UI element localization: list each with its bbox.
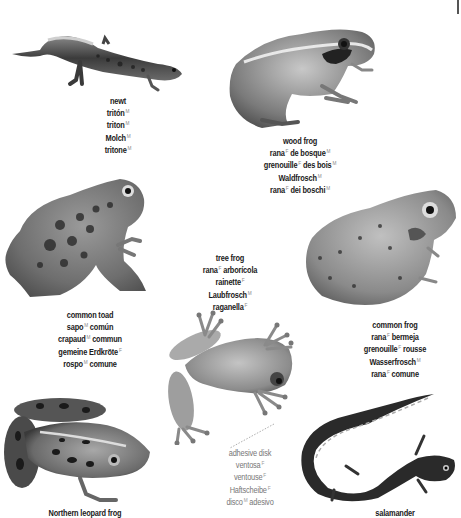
adhesive-disk-callout: adhesive disk ventosaF ventouseF Haftsch… xyxy=(198,448,301,507)
common-frog-label: common frog ranaF bermeja grenouilleF ro… xyxy=(343,320,446,379)
northern-leopard-frog-illustration xyxy=(0,392,160,502)
gender-marker: M xyxy=(248,290,252,296)
gender-marker: M xyxy=(244,497,248,503)
wood-frog-name: wood frog xyxy=(248,136,351,146)
page-corner-mark xyxy=(457,0,459,14)
adhesive-disk-leader-line xyxy=(220,420,280,450)
salamander-label: salamander xyxy=(343,508,446,518)
gender-marker: M xyxy=(125,108,129,114)
gender-marker: M xyxy=(417,357,421,363)
gender-marker: F xyxy=(398,344,401,350)
gender-marker: M xyxy=(84,359,88,365)
gender-marker: M xyxy=(127,145,131,151)
salamander-illustration xyxy=(298,388,460,504)
gender-marker: F xyxy=(286,185,289,191)
gender-marker: F xyxy=(119,347,122,353)
wood-frog-illustration xyxy=(222,24,382,132)
northern-leopard-frog-name: Northern leopard frog xyxy=(29,508,141,518)
gender-marker: F xyxy=(387,332,390,338)
common-toad-name: common toad xyxy=(34,310,146,320)
newt-label: newt tritónM tritonM MolchM tritoneM xyxy=(66,96,169,155)
gender-marker: M xyxy=(125,120,129,126)
gender-marker: F xyxy=(387,369,390,375)
gender-marker: F xyxy=(219,265,222,271)
gender-marker: M xyxy=(86,334,90,340)
gender-marker: F xyxy=(242,277,245,283)
gender-marker: F xyxy=(263,472,266,478)
gender-marker: F xyxy=(298,160,301,166)
gender-marker: M xyxy=(84,322,88,328)
adhesive-disk-name: adhesive disk xyxy=(198,448,301,458)
newt-illustration xyxy=(8,30,188,92)
tree-frog-name: tree frog xyxy=(178,253,281,263)
tree-frog-label: tree frog ranaF arborícola rainetteF Lau… xyxy=(178,253,281,312)
northern-leopard-frog-label: Northern leopard frog xyxy=(29,508,141,518)
newt-name: newt xyxy=(66,96,169,106)
common-frog-name: common frog xyxy=(343,320,446,330)
salamander-name: salamander xyxy=(343,508,446,518)
common-frog-illustration xyxy=(300,178,460,310)
common-toad-illustration xyxy=(0,165,150,305)
gender-marker: M xyxy=(127,133,131,139)
gender-marker: F xyxy=(286,148,289,154)
gender-marker: F xyxy=(261,460,264,466)
gender-marker: M xyxy=(326,148,330,154)
gender-marker: M xyxy=(332,160,336,166)
common-toad-label: common toad sapoM común crapaudM commun … xyxy=(34,310,146,369)
gender-marker: F xyxy=(268,485,271,491)
